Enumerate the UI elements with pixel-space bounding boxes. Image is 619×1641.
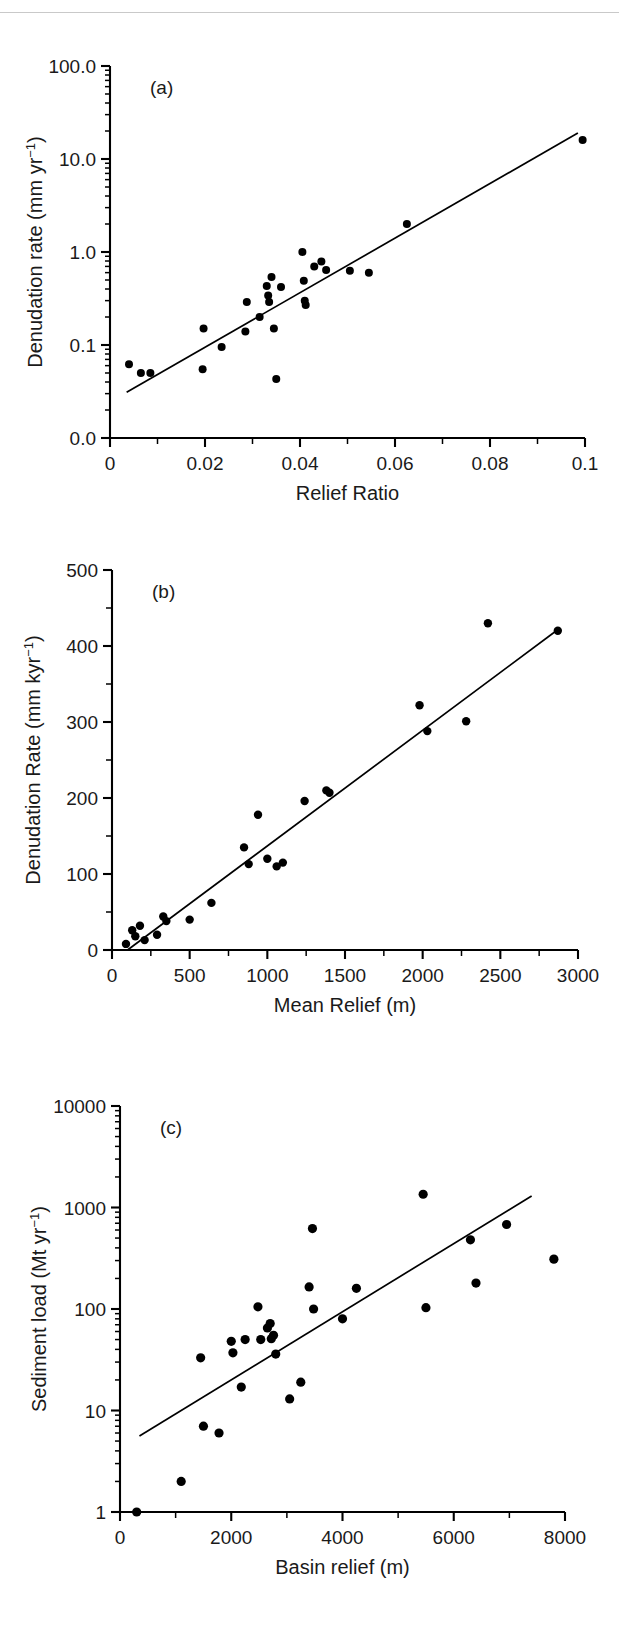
x-tick-label: 0 — [107, 965, 118, 986]
data-point — [466, 1235, 475, 1244]
svg-text:Denudation Rate (mm kyr−1): Denudation Rate (mm kyr−1) — [21, 635, 44, 884]
data-point — [199, 365, 207, 373]
data-point — [285, 1394, 294, 1403]
y-tick-label: 100 — [74, 1299, 106, 1320]
data-point — [296, 1378, 305, 1387]
chart-panel-b: 0100200300400500050010001500200025003000… — [0, 540, 619, 1070]
x-tick-label: 0 — [115, 1527, 126, 1548]
data-point — [146, 369, 154, 377]
data-point — [346, 267, 354, 275]
data-point — [308, 1224, 317, 1233]
x-tick-label: 2000 — [210, 1527, 252, 1548]
x-tick-label: 1000 — [246, 965, 288, 986]
data-point — [300, 277, 308, 285]
x-tick-label: 6000 — [433, 1527, 475, 1548]
svg-text:Sediment load (Mt yr−1): Sediment load (Mt yr−1) — [27, 1206, 50, 1412]
x-tick-label: 4000 — [321, 1527, 363, 1548]
x-tick-label: 1500 — [324, 965, 366, 986]
data-point — [137, 369, 145, 377]
y-tick-label: 400 — [66, 636, 98, 657]
y-tick-label: 0 — [87, 940, 98, 961]
data-point — [317, 258, 325, 266]
y-tick-label: 100 — [66, 864, 98, 885]
data-point — [199, 1422, 208, 1431]
data-point — [185, 915, 193, 923]
data-point — [270, 325, 278, 333]
data-point — [268, 273, 276, 281]
scatter-plot-c: 11010010001000002000400060008000(c)Basin… — [0, 1074, 619, 1641]
data-point — [237, 1383, 246, 1392]
data-point — [309, 1304, 318, 1313]
data-point — [279, 858, 287, 866]
data-point — [244, 860, 252, 868]
x-tick-label: 3000 — [557, 965, 599, 986]
data-point — [256, 313, 264, 321]
data-point — [462, 717, 470, 725]
x-axis-title: Mean Relief (m) — [274, 994, 416, 1016]
data-point — [338, 1314, 347, 1323]
data-point — [227, 1337, 236, 1346]
data-point — [125, 360, 133, 368]
data-point — [214, 1428, 223, 1437]
data-point — [423, 727, 431, 735]
data-point — [302, 301, 310, 309]
data-point — [579, 136, 587, 144]
data-point — [277, 283, 285, 291]
data-point — [305, 1282, 314, 1291]
y-axis-title: Denudation rate (mm yr−1) — [23, 136, 46, 368]
data-point — [298, 248, 306, 256]
data-point — [228, 1348, 237, 1357]
data-point — [253, 1302, 262, 1311]
data-point — [300, 797, 308, 805]
data-point — [263, 282, 271, 290]
x-tick-label: 8000 — [544, 1527, 586, 1548]
chart-panel-c: 11010010001000002000400060008000(c)Basin… — [0, 1074, 619, 1641]
x-tick-label: 0.1 — [572, 453, 598, 474]
data-point — [265, 298, 273, 306]
data-point — [549, 1255, 558, 1264]
y-tick-label: 10.0 — [59, 149, 96, 170]
data-point — [200, 325, 208, 333]
svg-text:Denudation rate (mm yr−1): Denudation rate (mm yr−1) — [23, 136, 46, 368]
data-point — [271, 1349, 280, 1358]
data-point — [419, 1190, 428, 1199]
data-point — [325, 788, 333, 796]
data-point — [256, 1335, 265, 1344]
data-point — [162, 917, 170, 925]
x-tick-label: 0.02 — [187, 453, 224, 474]
data-point — [272, 375, 280, 383]
x-tick-label: 500 — [174, 965, 206, 986]
data-point — [484, 619, 492, 627]
y-tick-label: 300 — [66, 712, 98, 733]
regression-line — [139, 1196, 531, 1436]
x-tick-label: 0.06 — [377, 453, 414, 474]
data-point — [132, 1507, 141, 1516]
data-point — [218, 343, 226, 351]
x-tick-label: 0.08 — [472, 453, 509, 474]
data-point — [266, 1319, 275, 1328]
data-point — [365, 269, 373, 277]
data-point — [554, 627, 562, 635]
data-point — [415, 701, 423, 709]
page-top-rule — [0, 12, 619, 13]
data-point — [322, 266, 330, 274]
x-axis-title: Basin relief (m) — [275, 1556, 409, 1578]
data-point — [177, 1477, 186, 1486]
y-tick-label: 10000 — [53, 1096, 106, 1117]
data-point — [153, 931, 161, 939]
data-point — [131, 932, 139, 940]
data-point — [421, 1303, 430, 1312]
data-point — [140, 936, 148, 944]
data-point — [241, 1335, 250, 1344]
y-tick-label: 200 — [66, 788, 98, 809]
data-point — [240, 843, 248, 851]
x-axis-title: Relief Ratio — [296, 482, 399, 504]
data-point — [196, 1353, 205, 1362]
regression-line — [128, 629, 560, 950]
panel-tag: (c) — [160, 1117, 182, 1138]
panel-tag: (a) — [150, 77, 173, 98]
data-point — [269, 1331, 278, 1340]
y-tick-label: 0.1 — [70, 335, 96, 356]
panel-tag: (b) — [152, 581, 175, 602]
x-tick-label: 0 — [105, 453, 116, 474]
